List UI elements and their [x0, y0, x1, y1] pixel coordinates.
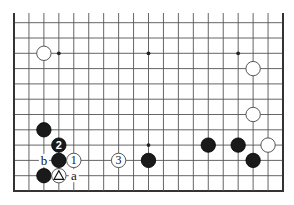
black-stone-disc [37, 123, 51, 137]
black-stone [246, 153, 260, 167]
star-point [147, 51, 151, 55]
black-stone [201, 138, 215, 152]
white-stone-move-1: 1 [67, 153, 81, 167]
white-stone [261, 138, 275, 152]
move-number: 1 [71, 153, 77, 167]
black-stone [231, 138, 245, 152]
black-stone-disc [52, 153, 66, 167]
move-number: 3 [116, 153, 122, 167]
white-stone [37, 46, 51, 60]
star-point [147, 143, 151, 147]
move-number: 2 [56, 139, 62, 151]
black-stone [37, 123, 51, 137]
white-stone [246, 107, 260, 121]
black-stone [141, 153, 155, 167]
white-stone-move-3: 3 [111, 153, 125, 167]
white-stone-disc [37, 46, 51, 60]
white-stone [52, 169, 66, 183]
white-stone [246, 61, 260, 75]
black-stone [52, 153, 66, 167]
white-stone-disc [246, 61, 260, 75]
point-label-text: a [71, 168, 77, 183]
black-stone-disc [141, 153, 155, 167]
black-stone-move-2: 2 [52, 138, 66, 152]
black-stone-disc [246, 153, 260, 167]
go-board: 213 ba [0, 0, 294, 205]
black-stone-disc [201, 138, 215, 152]
star-point [236, 51, 240, 55]
white-stone-disc [261, 138, 275, 152]
star-point [57, 51, 61, 55]
point-label-a: a [69, 168, 79, 183]
point-label-b: b [39, 153, 49, 168]
point-label-text: b [41, 153, 48, 168]
white-stone-disc [246, 107, 260, 121]
black-stone [37, 169, 51, 183]
black-stone-disc [231, 138, 245, 152]
black-stone-disc [37, 169, 51, 183]
